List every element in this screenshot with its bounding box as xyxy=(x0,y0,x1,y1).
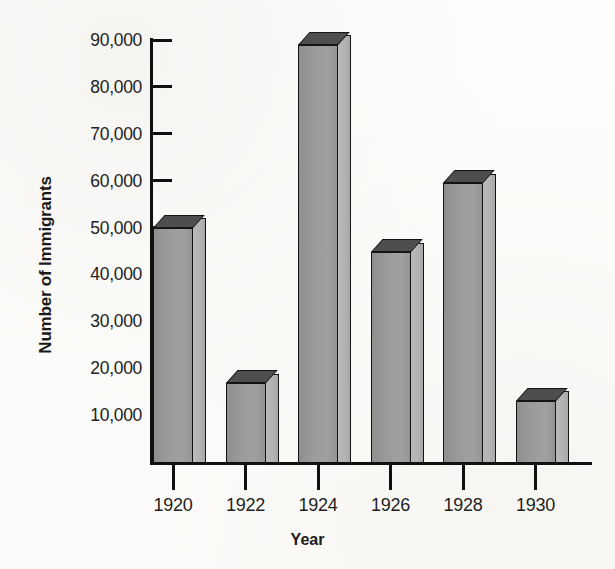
x-axis-tick-mark xyxy=(317,464,320,490)
immigration-bar-chart: Number of Immigrants 90,00080,00070,0006… xyxy=(0,0,615,569)
y-axis-tick-label: 90,000 xyxy=(58,30,142,51)
bar xyxy=(226,370,279,462)
bar-front-face xyxy=(298,45,338,462)
bar-side-face xyxy=(338,35,351,462)
x-axis-tick-mark xyxy=(534,464,537,490)
bar xyxy=(516,388,569,462)
y-axis-tick-label: 10,000 xyxy=(58,405,142,426)
y-axis-tick-mark xyxy=(150,179,172,182)
x-axis-tick-mark xyxy=(244,464,247,490)
y-axis-title: Number of Immigrants xyxy=(36,115,56,415)
bar-side-face xyxy=(483,174,496,462)
bar-front-face xyxy=(226,383,266,462)
y-axis-tick-labels: 90,00080,00070,00060,00050,00040,00030,0… xyxy=(58,0,142,569)
x-axis-tick-label: 1924 xyxy=(299,495,338,516)
x-axis-tick-label: 1920 xyxy=(154,495,193,516)
x-axis-tick-label: 1922 xyxy=(226,495,265,516)
x-axis-line xyxy=(150,462,592,465)
y-axis-tick-label: 80,000 xyxy=(58,76,142,97)
y-axis-tick-label: 70,000 xyxy=(58,123,142,144)
y-axis-tick-mark xyxy=(150,132,172,135)
bar xyxy=(371,239,424,462)
bar-front-face xyxy=(443,183,483,462)
bar-side-face xyxy=(556,391,569,462)
x-axis-title: Year xyxy=(0,531,615,549)
bar xyxy=(443,170,496,462)
y-axis-tick-label: 20,000 xyxy=(58,358,142,379)
y-axis-tick-label: 60,000 xyxy=(58,170,142,191)
bar-side-face xyxy=(266,374,279,462)
x-axis-tick-label: 1930 xyxy=(516,495,555,516)
y-axis-tick-mark xyxy=(150,85,172,88)
y-axis-tick-label: 50,000 xyxy=(58,217,142,238)
x-axis-tick-label: 1928 xyxy=(444,495,483,516)
bar-side-face xyxy=(193,218,206,462)
x-axis-tick-mark xyxy=(462,464,465,490)
bar-front-face xyxy=(153,228,193,462)
bar xyxy=(298,32,351,462)
y-axis-tick-mark xyxy=(150,39,172,42)
bar-front-face xyxy=(516,401,556,462)
y-axis-tick-label: 40,000 xyxy=(58,264,142,285)
bar-front-face xyxy=(371,252,411,462)
y-axis-tick-label: 30,000 xyxy=(58,311,142,332)
bar-side-face xyxy=(411,243,424,462)
x-axis-tick-mark xyxy=(172,464,175,490)
x-axis-tick-label: 1926 xyxy=(371,495,410,516)
x-axis-tick-mark xyxy=(389,464,392,490)
bar xyxy=(153,215,206,462)
